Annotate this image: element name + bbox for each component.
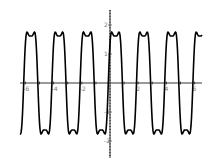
svg-text:-2: -2 [104, 137, 110, 144]
plot: -6-4-224621-1-2 [0, 0, 209, 164]
svg-text:1: 1 [104, 50, 108, 57]
svg-text:2: 2 [104, 21, 108, 28]
